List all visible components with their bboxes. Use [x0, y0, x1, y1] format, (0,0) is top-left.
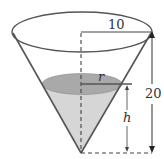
water-height-arrow-up-icon: [125, 85, 129, 90]
water-radius-label: r: [98, 69, 105, 84]
cone-diagram: 10 r 20 h: [0, 0, 164, 159]
height-arrow-down-icon: [149, 146, 155, 153]
water-height-arrow-down-icon: [125, 147, 129, 152]
top-radius-label: 10: [108, 17, 125, 32]
water-height-label: h: [123, 110, 131, 125]
height-label: 20: [145, 86, 162, 101]
